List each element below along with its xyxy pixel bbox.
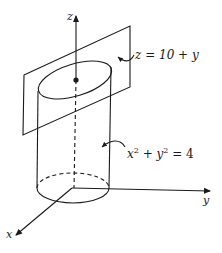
plane-leader-arrow — [118, 55, 134, 61]
x-axis-label: x — [6, 229, 12, 240]
cylinder-equation-label: x2 + y2 = 4 — [127, 147, 194, 160]
cyl-mid: + y — [139, 147, 163, 161]
plane-equation-label: z = 10 + y — [135, 49, 199, 61]
x-axis — [16, 188, 72, 235]
y-axis — [72, 188, 210, 191]
cylinder-leader-arrow — [102, 141, 125, 147]
cyl-rhs: = 4 — [168, 147, 193, 161]
cylinder-right-side — [109, 67, 111, 188]
y-axis-label: y — [203, 195, 209, 206]
cylinder-left-side — [37, 91, 38, 188]
diagram-canvas — [0, 0, 222, 253]
intersection-point — [73, 77, 78, 82]
z-axis-label: z — [67, 11, 73, 22]
cylinder-base-front — [37, 188, 109, 203]
cylinder-base-back — [37, 173, 109, 188]
cyl-x: x — [127, 147, 134, 161]
